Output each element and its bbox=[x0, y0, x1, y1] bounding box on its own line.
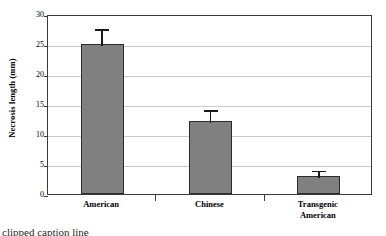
y-axis-tick-labels: 051015202530 bbox=[22, 0, 44, 236]
y-axis-tick-mark bbox=[44, 76, 48, 77]
y-axis-tick-label: 20 bbox=[24, 71, 44, 79]
y-axis-title: Necrosis length (mm) bbox=[2, 0, 22, 195]
x-axis-category-separator bbox=[264, 195, 265, 201]
error-bar-cap bbox=[95, 29, 109, 30]
x-axis-tick-label-line: American bbox=[47, 199, 155, 210]
figure-caption-text: clipped caption line bbox=[0, 228, 386, 236]
x-axis-tick-label: Chinese bbox=[155, 199, 263, 210]
y-axis-tick-mark bbox=[44, 166, 48, 167]
error-bar-stem bbox=[210, 110, 211, 123]
y-axis-tick-label: 15 bbox=[24, 101, 44, 109]
x-axis-tick-label-line: Transgenic bbox=[264, 199, 372, 210]
y-axis-tick-label: 30 bbox=[24, 11, 44, 19]
x-axis-tick-label: American bbox=[47, 199, 155, 210]
figure-bar-chart: Necrosis length (mm) 051015202530 Americ… bbox=[0, 0, 386, 236]
y-axis-tick-mark bbox=[44, 106, 48, 107]
x-axis-tick-label-line: Chinese bbox=[155, 199, 263, 210]
y-axis-tick-label: 10 bbox=[24, 131, 44, 139]
y-axis-tick-mark bbox=[44, 46, 48, 47]
x-axis-tick-label-line: American bbox=[264, 210, 372, 221]
y-axis-tick-label: 0 bbox=[24, 191, 44, 199]
x-axis-category-separator bbox=[155, 195, 156, 201]
y-axis-tick-mark bbox=[44, 196, 48, 197]
error-bar bbox=[95, 29, 109, 46]
plot-area bbox=[47, 15, 372, 195]
y-axis-tick-mark bbox=[44, 16, 48, 17]
y-axis-tick-label: 25 bbox=[24, 41, 44, 49]
error-bar-cap bbox=[204, 110, 218, 111]
y-axis-tick-label: 5 bbox=[24, 161, 44, 169]
y-axis-tick-mark bbox=[44, 136, 48, 137]
bar bbox=[297, 176, 340, 194]
x-axis-tick-label: TransgenicAmerican bbox=[264, 199, 372, 220]
error-bar-cap bbox=[312, 171, 326, 172]
bar bbox=[189, 121, 232, 194]
bar bbox=[81, 44, 124, 194]
figure-caption-clipped: clipped caption line bbox=[0, 228, 386, 236]
error-bar bbox=[312, 171, 326, 178]
error-bar bbox=[204, 110, 218, 123]
y-axis-title-label: Necrosis length (mm) bbox=[7, 58, 17, 137]
error-bar-stem bbox=[101, 29, 102, 46]
